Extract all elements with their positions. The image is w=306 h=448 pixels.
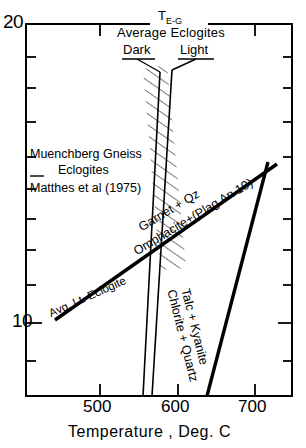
teg-main-text: T	[158, 8, 166, 23]
muenchberg-label-line2: Eclogites	[58, 164, 109, 177]
x-axis-label-600: 600	[161, 398, 189, 416]
average-eclogites-label: Average Eclogites	[117, 26, 225, 40]
dark-eclogite-label: Dark	[123, 43, 150, 57]
muenchberg-label-line3: Matthes et al (1975)	[30, 182, 141, 195]
x-axis-title: Temperature , Deg. C	[68, 424, 231, 441]
y-axis-label-20: 20	[3, 12, 23, 32]
label-leader-lines	[122, 59, 214, 72]
muenchberg-label-line1: Muenchberg Gneiss	[30, 148, 142, 161]
right-axis-ticks	[278, 24, 292, 361]
x-axis-label-500: 500	[83, 398, 111, 416]
light-eclogite-label: Light	[180, 43, 208, 57]
y-axis-label-10: 10	[12, 311, 32, 331]
teg-title: TE-G	[158, 9, 182, 26]
x-axis-label-700: 700	[238, 398, 266, 416]
